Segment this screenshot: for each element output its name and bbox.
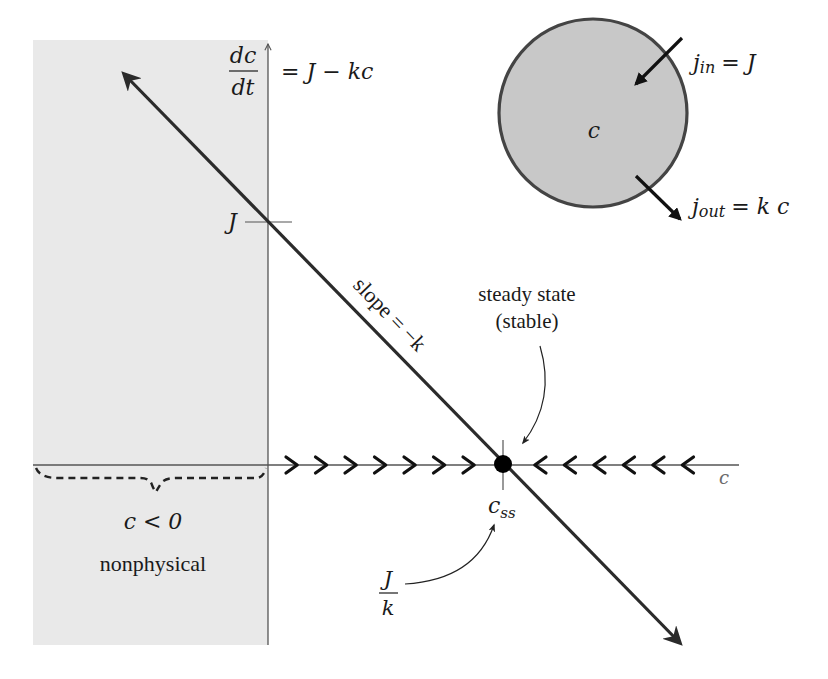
steady-state-value-label: css — [488, 493, 516, 522]
compartment-circle — [499, 19, 687, 207]
steady-state-pointer-arrow — [523, 346, 545, 443]
nonphysical-condition: c < 0 — [124, 509, 183, 534]
efflux-label: jout= k c — [687, 194, 789, 221]
steady-state-value-pointer-arrow — [405, 525, 494, 584]
css-main: c — [488, 493, 500, 518]
influx-label: jin= J — [688, 50, 757, 77]
phase-diagram: dc dt = J − kc J c slope = −k steady sta… — [0, 0, 828, 679]
j-over-k-numerator: J — [380, 567, 394, 591]
equation-denominator: dt — [232, 75, 255, 100]
steady-state-label: steady state — [478, 282, 575, 306]
equation-rhs: = J − kc — [281, 59, 373, 84]
nonphysical-label: nonphysical — [100, 551, 206, 576]
css-subscript: ss — [500, 504, 516, 522]
steady-state-point — [494, 455, 512, 473]
x-axis-label: c — [719, 467, 729, 488]
compartment-center-label: c — [588, 118, 600, 143]
equation-numerator: dc — [230, 43, 256, 68]
steady-state-stability-label: (stable) — [496, 309, 559, 333]
j-over-k-denominator: k — [382, 596, 395, 620]
